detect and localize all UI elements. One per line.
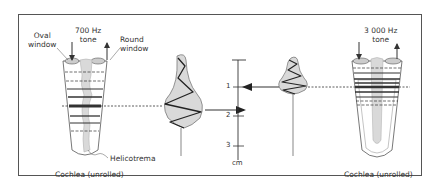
right-cochlea xyxy=(352,42,402,157)
tone-700hz-label: 700 Hz tone xyxy=(75,26,101,44)
oval-window-label: Oval window xyxy=(28,31,56,49)
left-cochlea-caption: Cochlea (unrolled) xyxy=(55,170,124,179)
left-cochlea xyxy=(57,42,120,158)
left-wave-envelope xyxy=(164,55,202,156)
tone-3000hz-line2: tone xyxy=(364,35,397,44)
round-window-label: Round window xyxy=(120,35,148,53)
scale-unit: cm xyxy=(232,159,243,167)
tone-700hz-line1: 700 Hz xyxy=(75,26,101,35)
round-window-label-line2: window xyxy=(120,44,148,53)
helicotrema-label: Helicotrema xyxy=(110,154,156,163)
tone-3000hz-label: 3 000 Hz tone xyxy=(364,26,397,44)
tone-700hz-line2: tone xyxy=(75,35,101,44)
tone-3000hz-line1: 3 000 Hz xyxy=(364,26,397,35)
scale-tick-1: 1 xyxy=(226,82,230,90)
scale-tick-3: 3 xyxy=(226,141,230,149)
round-window-label-line1: Round xyxy=(120,35,148,44)
oval-window-label-line2: window xyxy=(28,40,56,49)
scale-tick-2: 2 xyxy=(226,111,230,119)
right-wave-envelope xyxy=(279,57,308,156)
right-cochlea-caption: Cochlea (unrolled) xyxy=(344,170,413,179)
oval-window-label-line1: Oval xyxy=(28,31,56,40)
